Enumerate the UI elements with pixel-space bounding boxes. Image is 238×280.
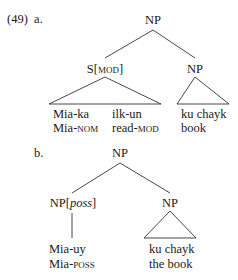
branch-b-right bbox=[120, 163, 170, 193]
a-right-leaf-word: ku chayk bbox=[181, 107, 226, 121]
b-left-leaf-gloss: Mia-POSS bbox=[49, 257, 95, 271]
triangle-a-np bbox=[177, 77, 229, 104]
sub-label-b: b. bbox=[34, 146, 43, 160]
tree-branches bbox=[0, 0, 238, 280]
a-leaf-gloss-1: Mia-NOM bbox=[53, 121, 98, 135]
gloss-tag-mod: MOD bbox=[138, 121, 159, 135]
a-right-leaf-gloss: book bbox=[181, 121, 206, 135]
example-number: (49) bbox=[7, 12, 28, 26]
a-right-np: NP bbox=[187, 62, 203, 76]
branch-a-right bbox=[153, 30, 195, 58]
b-root-np: NP bbox=[112, 146, 128, 160]
a-root-np: NP bbox=[145, 13, 161, 27]
b-right-leaf-gloss: the book bbox=[149, 257, 192, 271]
branch-b-left bbox=[72, 163, 120, 193]
a-leaf-gloss-2: read-MOD bbox=[112, 121, 159, 135]
b-right-np: NP bbox=[162, 196, 178, 210]
b-np-poss-node: NP[poss] bbox=[50, 196, 97, 210]
a-s-feature: MOD bbox=[98, 62, 119, 76]
gloss-stem: Mia- bbox=[49, 257, 73, 271]
b-left-leaf-word: Mia-uy bbox=[49, 242, 86, 256]
gloss-stem: read- bbox=[112, 121, 138, 135]
gloss-tag-nom: NOM bbox=[77, 121, 98, 135]
a-leaf-word-1: Mia-ka bbox=[53, 107, 89, 121]
gloss-stem: Mia- bbox=[53, 121, 77, 135]
a-s-cat: S bbox=[87, 62, 94, 76]
triangle-b-np bbox=[144, 211, 196, 238]
a-s-mod-node: S[MOD] bbox=[87, 62, 123, 76]
a-leaf-word-2: ilk-un bbox=[112, 107, 142, 121]
b-right-leaf-word: ku chayk bbox=[149, 242, 194, 256]
sub-label-a: a. bbox=[34, 12, 43, 26]
branch-a-left bbox=[105, 30, 153, 58]
gloss-tag-poss: POSS bbox=[73, 257, 95, 271]
b-np-feature: poss bbox=[70, 196, 92, 210]
example-label-a: (49) a. bbox=[7, 12, 43, 26]
b-np-cat: NP bbox=[50, 196, 66, 210]
triangle-a-s bbox=[49, 77, 161, 104]
